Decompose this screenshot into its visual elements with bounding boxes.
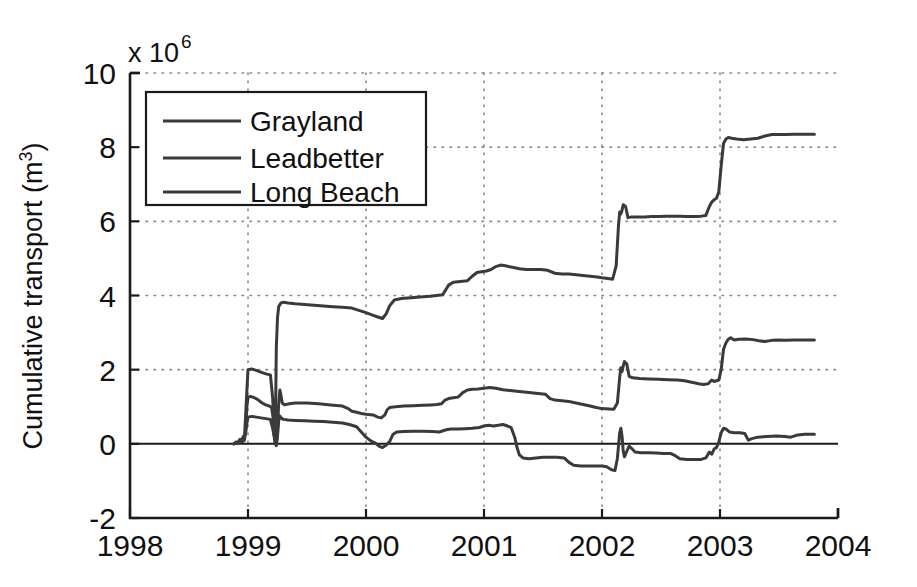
legend-label-long-beach: Long Beach (250, 177, 399, 208)
chart-figure: 1998199920002001200220032004 -20246810 x… (0, 0, 917, 587)
y-tick-label-8: 8 (99, 131, 116, 164)
y-tick-label-6: 6 (99, 205, 116, 238)
x-tick-label-2003: 2003 (687, 529, 754, 562)
y-tick-label-neg2: -2 (89, 502, 116, 535)
cumulative-transport-line-chart: 1998199920002001200220032004 -20246810 x… (0, 0, 917, 587)
exponent-prefix-label: x 10 (128, 38, 179, 68)
y-axis-title: Cumulative transport (m3) (16, 142, 48, 449)
y-tick-label-2: 2 (99, 354, 116, 387)
x-tick-label-2001: 2001 (451, 529, 518, 562)
exponent-power-label: 6 (181, 31, 192, 52)
x-tick-label-2000: 2000 (333, 529, 400, 562)
y-axis-title-main: Cumulative transport (m (18, 161, 48, 449)
figure-background (0, 0, 917, 587)
chart-legend[interactable]: Grayland Leadbetter Long Beach (146, 92, 426, 208)
x-tick-label-2004: 2004 (805, 529, 872, 562)
legend-label-leadbetter: Leadbetter (250, 143, 384, 174)
y-axis-title-text: Cumulative transport (m3) (16, 142, 48, 449)
legend-label-grayland: Grayland (250, 106, 364, 137)
y-axis-title-tail: ) (18, 142, 48, 151)
y-tick-label-4: 4 (99, 280, 116, 313)
y-tick-label-10: 10 (83, 57, 116, 90)
y-axis-title-superscript: 3 (16, 151, 36, 161)
y-tick-label-0: 0 (99, 428, 116, 461)
x-tick-label-1999: 1999 (215, 529, 282, 562)
x-tick-label-2002: 2002 (569, 529, 636, 562)
